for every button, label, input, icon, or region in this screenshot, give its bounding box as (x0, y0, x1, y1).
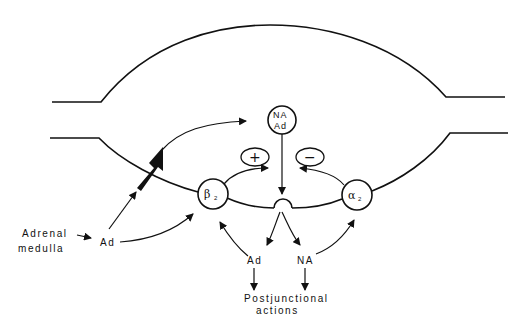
minus-inhibition-icon: − (296, 148, 324, 166)
alpha2-receptor: α 2 (342, 180, 372, 210)
beta2-receptor: β 2 (198, 179, 228, 209)
svg-text:+: + (249, 149, 261, 165)
arrow-na-to-alpha2 (316, 220, 354, 254)
svg-text:β: β (204, 188, 210, 201)
arrow-release-to-na (282, 212, 300, 245)
circulating-ad-label: Ad (100, 237, 115, 248)
released-ad-label: Ad (247, 255, 262, 266)
na-ad-vesicle: NA Ad (268, 106, 296, 134)
arrow-alpha2-to-minus (300, 168, 344, 185)
arrow-uptake-to-store (162, 121, 246, 150)
adrenal-label-1: Adrenal (22, 228, 68, 239)
postjunctional-label-1: Postjunctional (244, 293, 329, 304)
plus-facilitation-icon: + (241, 148, 269, 166)
varicosity-diagram: β 2 α 2 NA Ad + − (0, 0, 524, 323)
arrow-ad-to-uptake (109, 192, 136, 229)
svg-text:−: − (304, 149, 316, 165)
upper-membrane (52, 25, 505, 102)
arrow-beta2-to-plus (224, 168, 268, 184)
arrow-adrenal-to-ad (77, 235, 91, 238)
lower-membrane-mid-left (227, 198, 274, 208)
svg-text:Ad: Ad (274, 121, 287, 131)
arrow-circulating-ad-to-beta2 (120, 214, 193, 242)
adrenal-label-2: medulla (18, 243, 64, 254)
svg-text:α: α (348, 189, 356, 202)
released-na-label: NA (297, 255, 314, 266)
release-bump (274, 199, 292, 208)
arrow-release-to-ad (267, 212, 280, 245)
lower-membrane-left (50, 138, 198, 192)
postjunctional-label-2: actions (256, 305, 299, 316)
lower-membrane-mid-right (292, 199, 342, 208)
arrow-ad-to-beta2 (220, 222, 248, 256)
svg-text:NA: NA (273, 110, 288, 120)
lower-membrane-right (372, 133, 508, 191)
